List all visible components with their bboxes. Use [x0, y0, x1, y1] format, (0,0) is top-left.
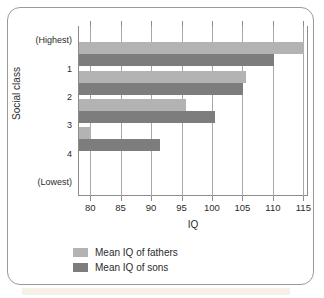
x-tick-label-95: 95	[167, 202, 197, 213]
tick-top-105	[242, 21, 243, 26]
x-tick-label-80: 80	[75, 202, 105, 213]
y-tick-label-5: 4	[67, 149, 72, 159]
page-bottom-band	[22, 288, 290, 295]
bar-mean-iq-of-fathers-class-1	[79, 42, 304, 54]
tick-bottom-100	[212, 196, 213, 201]
y-tick-label-4: 3	[67, 120, 72, 130]
x-tick-label-110: 110	[258, 202, 288, 213]
x-tick-label-105: 105	[227, 202, 257, 213]
tick-top-115	[303, 21, 304, 26]
x-tick-label-115: 115	[288, 202, 318, 213]
tick-top-85	[121, 21, 122, 26]
y-tick-label-1: (Highest)	[35, 35, 72, 45]
y-tick-label-2: 1	[67, 64, 72, 74]
tick-bottom-90	[151, 196, 152, 201]
y-tick-label-3: 2	[67, 92, 72, 102]
tick-bottom-85	[121, 196, 122, 201]
y-axis-tick-labels: (Highest)1234(Lowest)	[0, 26, 76, 196]
tick-bottom-110	[273, 196, 274, 201]
x-axis-title: IQ	[78, 219, 308, 230]
chart-legend: Mean IQ of fathersMean IQ of sons	[73, 245, 178, 275]
legend-swatch-2	[73, 263, 88, 272]
legend-label-1: Mean IQ of fathers	[95, 247, 178, 258]
x-tick-label-85: 85	[106, 202, 136, 213]
tick-top-80	[90, 21, 91, 26]
bar-mean-iq-of-sons-class-3	[79, 111, 215, 123]
tick-bottom-95	[182, 196, 183, 201]
tick-bottom-115	[303, 196, 304, 201]
bar-mean-iq-of-sons-class-2	[79, 83, 243, 95]
legend-item-2: Mean IQ of sons	[73, 260, 178, 275]
legend-item-1: Mean IQ of fathers	[73, 245, 178, 260]
tick-top-100	[212, 21, 213, 26]
x-tick-label-90: 90	[136, 202, 166, 213]
tick-bottom-105	[242, 196, 243, 201]
bar-mean-iq-of-sons-class-1	[79, 54, 274, 66]
bar-mean-iq-of-fathers-class-2	[79, 71, 246, 83]
plot-axis-right	[307, 26, 308, 196]
tick-top-110	[273, 21, 274, 26]
tick-top-95	[182, 21, 183, 26]
tick-top-90	[151, 21, 152, 26]
legend-swatch-1	[73, 248, 88, 257]
x-tick-label-100: 100	[197, 202, 227, 213]
bar-mean-iq-of-sons-class-4	[79, 139, 160, 151]
bar-mean-iq-of-fathers-class-3	[79, 99, 186, 111]
bar-mean-iq-of-fathers-class-4	[79, 127, 91, 139]
y-tick-label-6: (Lowest)	[37, 177, 72, 187]
plot-area	[78, 26, 308, 196]
tick-bottom-80	[90, 196, 91, 201]
legend-label-2: Mean IQ of sons	[95, 262, 168, 273]
